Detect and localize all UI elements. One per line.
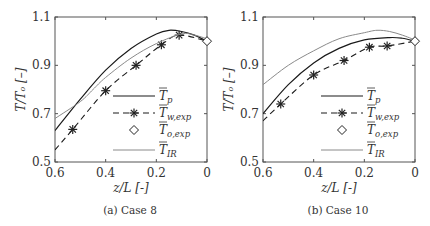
y-tick-label: 0.5 [240, 155, 259, 169]
series-t-ir [263, 30, 415, 84]
chart-panel-case-8: 0.60.40.201.10.90.70.5z/L [-]T/Tₒ [–](a)… [14, 10, 212, 216]
x-axis-label: z/L [-] [112, 181, 149, 195]
y-tick-label: 1.1 [32, 10, 51, 24]
asterisk-marker [132, 61, 141, 70]
y-tick-label: 0.5 [32, 155, 51, 169]
figure: 0.60.40.201.10.90.70.5z/L [-]T/Tₒ [–](a)… [0, 0, 430, 226]
x-tick-label: 0.2 [355, 166, 374, 180]
y-tick-label: 0.9 [240, 58, 259, 72]
asterisk-marker [340, 56, 349, 65]
diamond-marker [338, 126, 347, 135]
legend-entry: TIR [367, 143, 385, 159]
x-tick-label: 0 [203, 166, 211, 180]
figure-caption: (a) Case 8 [103, 204, 157, 216]
series-t-p [263, 37, 415, 113]
x-axis-label: z/L [-] [320, 181, 357, 195]
legend-entry: To,exp [367, 123, 399, 139]
plot-area [55, 17, 207, 162]
asterisk-marker [68, 125, 77, 134]
asterisk-marker [365, 43, 374, 52]
x-tick-label: 0 [411, 166, 419, 180]
y-tick-label: 0.7 [240, 107, 259, 121]
figure-caption: (b) Case 10 [308, 204, 369, 216]
asterisk-marker [338, 109, 347, 118]
asterisk-marker [383, 42, 392, 51]
asterisk-marker [276, 100, 285, 109]
y-axis-label: T/Tₒ [–] [14, 67, 28, 111]
asterisk-marker [309, 71, 318, 80]
legend-entry: Tp [159, 89, 173, 105]
legend-entry: To,exp [159, 123, 191, 139]
legend-entry: TIR [159, 143, 177, 159]
asterisk-marker [101, 86, 110, 95]
series-t-ir [55, 33, 207, 118]
series-t-w-exp [263, 41, 415, 121]
x-tick-label: 0.4 [96, 166, 115, 180]
x-tick-label: 0.4 [304, 166, 323, 180]
chart-panel-case-10: 0.60.40.201.10.90.70.5z/L [-]T/Tₒ [–](b)… [222, 10, 420, 216]
diamond-marker [411, 37, 420, 46]
legend: TpTw,expTo,expTIR [113, 88, 192, 159]
y-tick-label: 0.9 [32, 58, 51, 72]
legend: TpTw,expTo,expTIR [321, 88, 400, 159]
legend-entry: Tw,exp [367, 106, 400, 122]
diamond-marker [130, 126, 139, 135]
legend-entry: Tp [367, 89, 381, 105]
asterisk-marker [130, 109, 139, 118]
y-tick-label: 1.1 [240, 10, 259, 24]
legend-entry: Tw,exp [159, 106, 192, 122]
y-axis-label: T/Tₒ [–] [222, 67, 236, 111]
y-tick-label: 0.7 [32, 107, 51, 121]
x-tick-label: 0.2 [147, 166, 166, 180]
